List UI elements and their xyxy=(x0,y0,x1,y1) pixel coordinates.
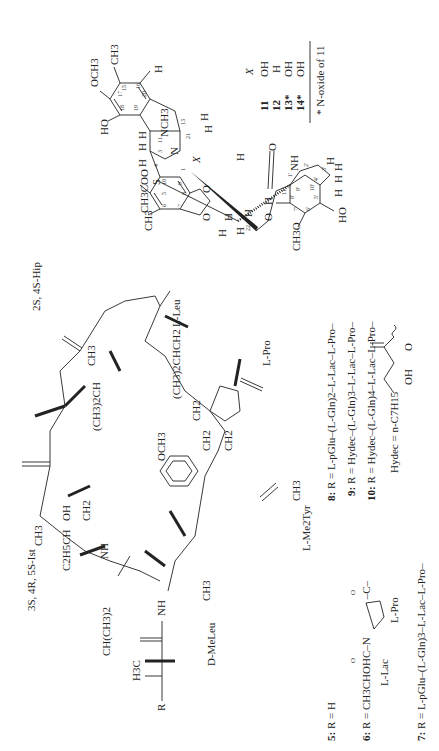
h-label: H xyxy=(262,197,274,205)
tyrosine-ring-inner xyxy=(166,461,192,481)
nh-label: NH xyxy=(98,543,110,559)
bond xyxy=(100,91,110,99)
oh-label: OH xyxy=(60,505,72,521)
atom-number: 5' xyxy=(313,195,319,199)
atom-number: 6' xyxy=(305,207,311,211)
ho-label: HO xyxy=(336,207,348,223)
ch3coo-label: CH3COO xyxy=(138,169,150,213)
r-def-8: 8: R = L-pGlu–(L-Gln)2–L-Lac–L-Pro– xyxy=(325,323,338,501)
h-label: H xyxy=(234,227,246,235)
bond xyxy=(140,71,150,83)
proline-ring xyxy=(210,386,240,421)
ch3-label: CH3 xyxy=(108,44,120,65)
pro-label: L-Pro xyxy=(388,597,400,623)
substituent-table: X 11 OH 12 H 13* OH 14* OH * N-oxide of … xyxy=(243,41,326,123)
atom-number: 19 xyxy=(133,105,139,111)
atom-number: 1 xyxy=(180,168,186,171)
ch3o-label: CH3O xyxy=(290,222,302,251)
rotated-page: OCH3 CH3 HO H 17 18 19 20 16 15 NCH3 N S… xyxy=(0,0,439,751)
table-x-value: OH xyxy=(282,61,294,77)
carbonyl-bond xyxy=(272,151,274,189)
atom-number: 6 xyxy=(161,204,167,207)
o-label: O xyxy=(262,213,274,221)
o-label: O xyxy=(266,143,278,151)
atom-number: 16 xyxy=(135,83,141,89)
ch2-label: CH2 xyxy=(200,430,212,451)
ch2-label: CH2 xyxy=(80,500,92,521)
ch2-label: CH2 xyxy=(190,400,202,421)
atom-number: 13 xyxy=(180,119,186,125)
wedge-bond xyxy=(190,171,258,231)
h-label: H xyxy=(332,163,344,171)
n-label: N xyxy=(168,147,180,155)
hydec-definition: Hydec = n-C7H15 xyxy=(388,391,400,473)
h-label: H xyxy=(202,125,214,133)
didemnin-structure: 2S, 4S-Hip L-Leu L-Pro 3S, 4R, 5S-Ist D-… xyxy=(22,262,312,711)
carbonyl-bond xyxy=(268,151,270,189)
nch3-label: NCH3 xyxy=(158,108,170,137)
table-footnote: * N-oxide of 11 xyxy=(314,45,326,115)
ch3-label: CH3 xyxy=(32,525,44,546)
h-label: H xyxy=(332,175,344,183)
proline-ring-r6 xyxy=(366,601,384,629)
bond xyxy=(320,203,334,211)
bond xyxy=(320,175,330,185)
ecteinascidin-structure: OCH3 CH3 HO H 17 18 19 20 16 15 NCH3 N S… xyxy=(88,41,348,251)
atom-number: 11' xyxy=(281,188,287,195)
h-label: H xyxy=(332,189,344,197)
residue-label-pro: L-Pro xyxy=(260,340,272,366)
atom-number: 12' xyxy=(227,214,233,221)
carbonyl-o-label: O xyxy=(349,658,357,663)
bold-bond xyxy=(110,351,120,371)
table-compound: 13* xyxy=(282,94,294,111)
h3c-label: H3C xyxy=(130,660,142,681)
h-label: H xyxy=(136,131,148,139)
residue-label-meleu: D-MeLeu xyxy=(205,622,217,666)
isobutyl-label: (CH3)2CHCH2 xyxy=(170,329,183,399)
atom-number: 1' xyxy=(287,173,293,177)
nh-label: NH xyxy=(155,600,167,616)
atom-number: 10' xyxy=(309,184,315,191)
atom-number: 3 xyxy=(157,150,163,153)
h-label: H xyxy=(242,209,254,217)
bold-bond xyxy=(145,551,165,566)
o-label: O xyxy=(402,343,414,351)
table-compound: 11 xyxy=(258,101,270,111)
bond xyxy=(256,221,268,231)
lac-label: L-Lac xyxy=(378,659,390,686)
carbonyl-bond xyxy=(260,483,276,497)
atom-number: 4' xyxy=(313,177,319,181)
residue-label-tyr: L-Me2Tyr xyxy=(300,505,312,551)
atom-number: 21 xyxy=(185,133,191,139)
atom-number: 9 xyxy=(177,182,183,185)
ring-a xyxy=(110,83,150,115)
ch3-label: CH3 xyxy=(200,580,212,601)
ch3-label: CH3 xyxy=(142,210,154,231)
r-label: R xyxy=(155,703,167,711)
wavy-bond xyxy=(392,325,396,337)
o-label: O xyxy=(200,213,212,221)
r-definitions: 5: R = H 6: R = CH3CHOHC–N–C– O O L-Lac … xyxy=(325,321,428,741)
atom-number: 15 xyxy=(121,85,127,91)
bold-bond xyxy=(65,386,85,406)
table-x-value: OH xyxy=(258,61,270,77)
table-compound: 12 xyxy=(270,100,282,112)
residue-label-hip: 2S, 4S-Hip xyxy=(30,262,42,311)
table-compound: 14* xyxy=(294,94,306,111)
table-x-value: OH xyxy=(294,61,306,77)
ethyl-label: C2H5CH xyxy=(60,529,72,571)
atom-number: 7 xyxy=(177,204,183,207)
atom-number: 5 xyxy=(161,192,167,195)
h-label: H xyxy=(136,159,148,167)
residue-label-ist: 3S, 4R, 5S-Ist xyxy=(25,549,37,611)
table-x-value: H xyxy=(270,65,282,73)
bold-bond xyxy=(68,486,90,496)
ch3-label: CH3 xyxy=(85,345,97,366)
och3-label: OCH3 xyxy=(155,432,167,461)
carbonyl-bond xyxy=(262,487,278,501)
h-label: H xyxy=(234,153,246,161)
carbonyl-o-label: O xyxy=(349,590,357,595)
h-label: H xyxy=(198,113,210,121)
bond xyxy=(160,291,170,306)
r-def-5: 5: R = H xyxy=(325,702,337,741)
